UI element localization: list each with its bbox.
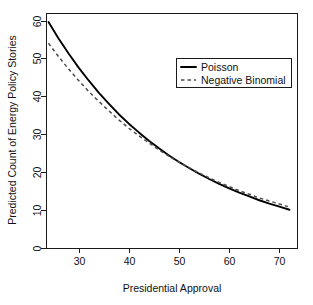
y-axis-title: Predicted Count of Energy Policy Stories xyxy=(6,35,18,225)
x-tick-label: 50 xyxy=(174,255,186,267)
y-tick-label: 0 xyxy=(31,245,43,251)
y-tick-label: 40 xyxy=(31,91,43,103)
y-tick-label: 30 xyxy=(31,129,43,141)
x-tick-label: 30 xyxy=(74,255,86,267)
x-tick-label: 70 xyxy=(274,255,286,267)
legend-label: Negative Binomial xyxy=(201,74,286,86)
y-tick-label: 60 xyxy=(31,16,43,28)
energy-policy-stories-line-chart: 3040506070 0102030405060 Presidential Ap… xyxy=(0,0,313,305)
x-axis-title: Presidential Approval xyxy=(123,282,222,294)
y-tick-label: 50 xyxy=(31,53,43,65)
chart-figure: 3040506070 0102030405060 Presidential Ap… xyxy=(0,0,313,305)
y-tick-label: 20 xyxy=(31,167,43,179)
x-tick-label: 40 xyxy=(124,255,136,267)
chart-legend: PoissonNegative Binomial xyxy=(177,59,292,88)
x-tick-label: 60 xyxy=(224,255,236,267)
y-tick-label: 10 xyxy=(31,205,43,217)
legend-label: Poisson xyxy=(201,61,239,73)
